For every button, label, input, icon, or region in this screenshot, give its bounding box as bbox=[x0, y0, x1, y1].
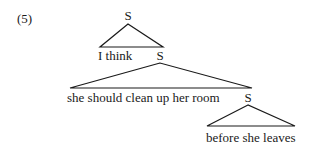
leaf-before-she-leaves: before she leaves bbox=[206, 131, 296, 144]
node-s-adverbial: S bbox=[244, 91, 251, 104]
leaf-clause: she should clean up her room bbox=[67, 91, 220, 104]
tree-edges bbox=[0, 0, 313, 149]
triangle-level3 bbox=[207, 105, 295, 126]
triangle-level2 bbox=[70, 63, 252, 88]
leaf-i-think: I think bbox=[98, 49, 132, 62]
node-s-embedded: S bbox=[156, 49, 163, 62]
node-s-root: S bbox=[124, 9, 131, 22]
triangle-root bbox=[100, 24, 163, 47]
